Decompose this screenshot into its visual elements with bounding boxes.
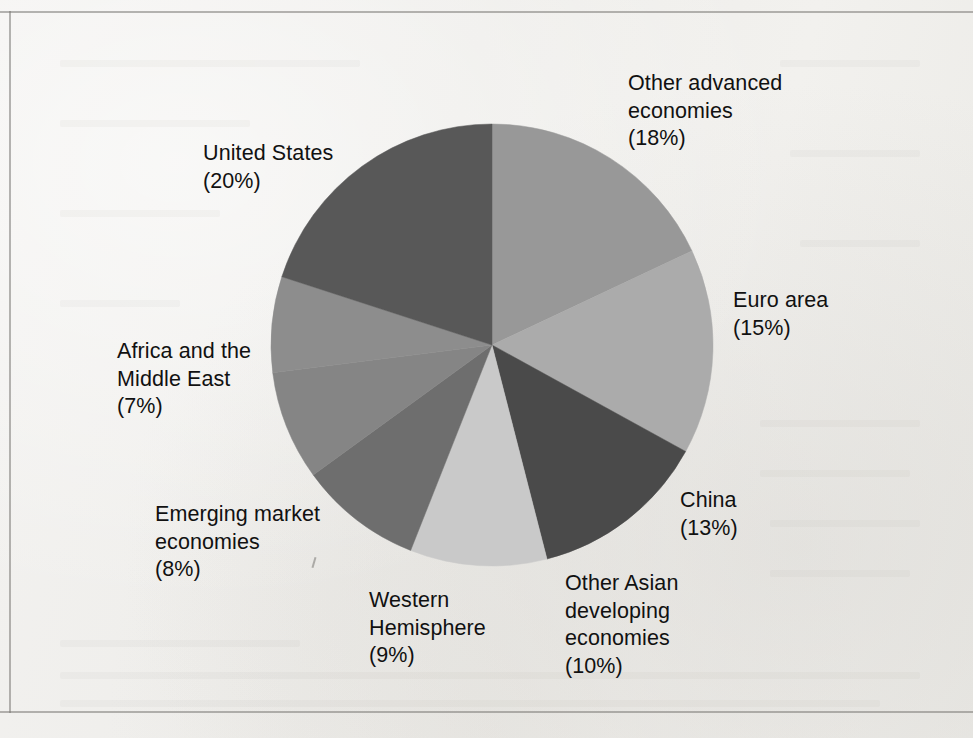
slice-label-united-states: United States (20%) <box>203 140 333 195</box>
figure-page: Other advanced economies (18%) Euro area… <box>0 0 973 738</box>
slice-label-other-asian-developing-economies: Other Asian developing economies (10%) <box>565 570 678 680</box>
pie-chart: Other advanced economies (18%) Euro area… <box>0 0 973 738</box>
pie-slice-group <box>271 124 713 566</box>
slice-label-other-advanced-economies: Other advanced economies (18%) <box>628 70 782 153</box>
slice-label-china: China (13%) <box>680 487 738 542</box>
slice-label-emerging-market-economies: Emerging market economies (8%) <box>155 501 320 584</box>
slice-label-western-hemisphere: Western Hemisphere (9%) <box>369 587 486 670</box>
slice-label-africa-and-the-middle-east: Africa and the Middle East (7%) <box>117 338 251 421</box>
slice-label-euro-area: Euro area (15%) <box>733 287 828 342</box>
